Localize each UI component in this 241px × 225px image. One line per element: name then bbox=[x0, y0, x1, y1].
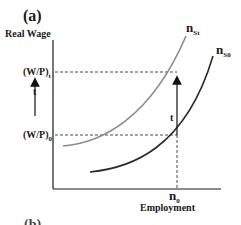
curve-nst bbox=[63, 36, 186, 146]
panel-label: (a) bbox=[23, 8, 42, 24]
x-tick-n0: n0 bbox=[169, 189, 180, 202]
shift-label-left: t bbox=[33, 87, 36, 97]
y-tick-wp-t: (W/P)t bbox=[23, 67, 51, 77]
y-tick-wp-0: (W/P)0 bbox=[23, 130, 52, 140]
x-axis-title: Employment bbox=[140, 203, 195, 213]
curve-ns0 bbox=[90, 56, 213, 172]
y-axis-title: Real Wage bbox=[5, 29, 51, 39]
curve-label-ns0: nS0 bbox=[216, 43, 231, 56]
curve-label-nst: nSt bbox=[186, 21, 199, 34]
shift-label-mid: t bbox=[170, 113, 173, 123]
next-panel-label-partial: (b) bbox=[24, 218, 41, 225]
